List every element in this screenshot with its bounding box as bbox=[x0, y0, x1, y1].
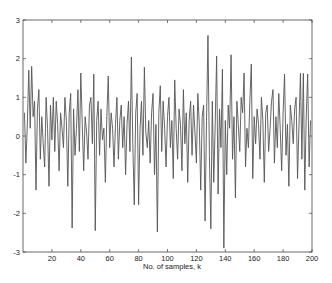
chart: 20406080100120140160180200-3-2-10123 No.… bbox=[0, 0, 332, 283]
y-tick-label: 3 bbox=[16, 16, 20, 25]
signal-line bbox=[24, 35, 310, 248]
y-tick-label: 0 bbox=[16, 132, 20, 141]
x-axis-label: No. of samples, k bbox=[0, 262, 332, 271]
line-chart-svg: 20406080100120140160180200-3-2-10123 bbox=[0, 0, 332, 283]
y-tick-label: 1 bbox=[16, 93, 20, 102]
y-tick-label: -2 bbox=[13, 209, 20, 218]
y-tick-label: -3 bbox=[13, 248, 20, 257]
axis-tick-labels: 20406080100120140160180200-3-2-10123 bbox=[13, 16, 318, 264]
y-tick-label: 2 bbox=[16, 54, 20, 63]
y-tick-label: -1 bbox=[13, 170, 20, 179]
